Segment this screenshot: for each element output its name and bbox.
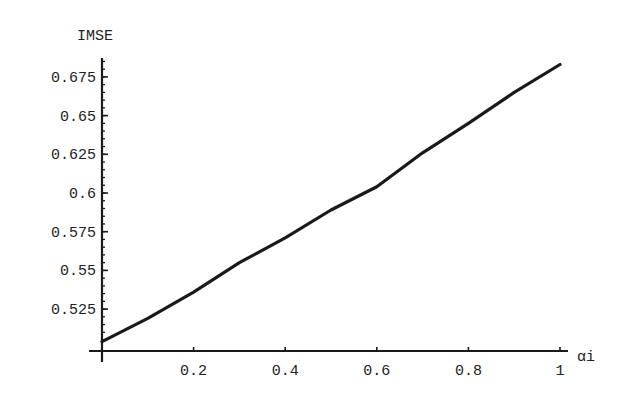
y-axis: 0.5250.550.5750.60.6250.650.675 (51, 58, 108, 362)
y-tick-label: 0.65 (60, 109, 96, 126)
x-axis: 0.20.40.60.81 (89, 347, 568, 380)
y-tick-label: 0.55 (60, 263, 96, 280)
x-tick-label: 0.6 (363, 363, 390, 380)
y-tick-label: 0.675 (51, 70, 96, 87)
x-tick-label: 0.2 (180, 363, 207, 380)
y-tick-label: 0.575 (51, 225, 96, 242)
x-tick-label: 0.4 (272, 363, 299, 380)
y-axis-title: IMSE (77, 28, 113, 45)
y-tick-label: 0.525 (51, 302, 96, 319)
line-chart: 0.5250.550.5750.60.6250.650.675 0.20.40.… (0, 0, 644, 394)
y-tick-label: 0.625 (51, 147, 96, 164)
imse-curve (102, 65, 560, 342)
x-tick-label: 1 (555, 363, 564, 380)
x-tick-label: 0.8 (455, 363, 482, 380)
y-tick-label: 0.6 (69, 186, 96, 203)
x-axis-title: αi (577, 349, 595, 366)
